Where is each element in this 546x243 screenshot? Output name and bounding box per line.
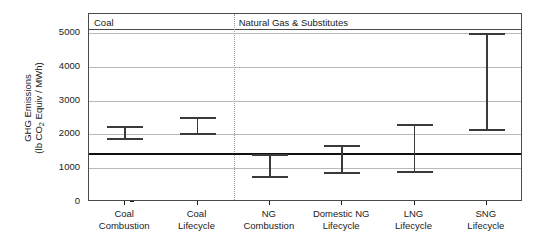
error-bar-cap-high [252, 154, 288, 156]
y-tick-mark-0 [130, 201, 134, 202]
x-tick-label-line: Coal [99, 208, 150, 220]
x-tick-label-line: Lifecycle [313, 220, 369, 232]
x-tick-mark-5 [414, 201, 415, 205]
x-tick-label-coal-lifecycle: CoalLifecycle [178, 208, 215, 232]
x-tick-label-line: SNG [467, 208, 504, 220]
error-bar-coal-lifecycle [180, 117, 216, 135]
y-tick-label-3000: 3000 [46, 95, 80, 105]
y-tick-label-4000: 4000 [46, 61, 80, 71]
y-axis-title-line2: (lb CO2 Equiv / MWh) [33, 62, 46, 153]
panel-divider [234, 14, 235, 200]
y-axis-title-subscript: 2 [37, 122, 46, 126]
error-bar-cap-high [397, 124, 433, 126]
y-axis-title-line1: GHG Emissions [22, 74, 34, 142]
ghg-emissions-chart: GHG Emissions (lb CO2 Equiv / MWh) 01000… [0, 0, 546, 243]
x-tick-label-line: Lifecycle [395, 220, 432, 232]
error-bar-lng-lifecycle [397, 124, 433, 174]
x-tick-label-line: Lifecycle [178, 220, 215, 232]
x-tick-label-line: LNG [395, 208, 432, 220]
x-tick-mark-4 [341, 201, 342, 205]
x-tick-mark-6 [486, 201, 487, 205]
x-tick-label-line: Lifecycle [467, 220, 504, 232]
gridline-1000 [89, 168, 521, 169]
error-bar-cap-low [180, 133, 216, 135]
x-tick-label-line: NG [243, 208, 294, 220]
x-tick-label-sng-lifecycle: SNGLifecycle [467, 208, 504, 232]
gridline-2000 [89, 134, 521, 135]
y-tick-label-2000: 2000 [46, 129, 80, 139]
x-tick-label-domestic-ng-lifecycle: Domestic NGLifecycle [313, 208, 369, 232]
reference-line [89, 153, 521, 155]
panel-header-rule [89, 29, 521, 30]
x-tick-label-line: Combustion [243, 220, 294, 232]
error-bar-cap-high [107, 126, 143, 128]
error-bar-cap-low [252, 176, 288, 178]
y-axis-ticks: 010002000300040005000 [46, 0, 80, 243]
error-bar-stem [341, 145, 343, 174]
error-bar-cap-low [324, 172, 360, 174]
error-bar-domestic-ng-lifecycle [324, 145, 360, 174]
panel-header-1: Coal [94, 18, 114, 28]
panel-header-2: Natural Gas & Substitutes [239, 18, 348, 28]
error-bar-coal-combustion [107, 126, 143, 141]
y-tick-label-0: 0 [46, 196, 80, 206]
x-tick-label-line: Combustion [99, 220, 150, 232]
x-tick-label-ng-combustion: NGCombustion [243, 208, 294, 232]
y-axis-title-units-post: Equiv / MWh) [33, 62, 44, 122]
x-tick-label-coal-combustion: CoalCombustion [99, 208, 150, 232]
error-bar-cap-high [324, 145, 360, 147]
error-bar-cap-high [469, 33, 505, 35]
plot-area: CoalNatural Gas & Substitutes [88, 13, 522, 201]
error-bar-sng-lifecycle [469, 33, 505, 131]
error-bar-ng-combustion [252, 154, 288, 179]
x-tick-mark-2 [197, 201, 198, 205]
y-axis-title-units-pre: (lb CO [33, 126, 44, 153]
x-tick-label-line: Domestic NG [313, 208, 369, 220]
y-tick-label-1000: 1000 [46, 162, 80, 172]
y-tick-label-5000: 5000 [46, 27, 80, 37]
gridline-5000 [89, 33, 521, 34]
gridline-4000 [89, 67, 521, 68]
x-tick-label-line: Coal [178, 208, 215, 220]
error-bar-cap-low [397, 171, 433, 173]
x-tick-label-lng-lifecycle: LNGLifecycle [395, 208, 432, 232]
error-bar-cap-low [469, 129, 505, 131]
error-bar-stem [414, 124, 416, 174]
error-bar-stem [486, 33, 488, 131]
error-bar-cap-high [180, 117, 216, 119]
x-tick-mark-1 [124, 201, 125, 205]
error-bar-stem [269, 154, 271, 179]
error-bar-cap-low [107, 138, 143, 140]
x-tick-mark-3 [269, 201, 270, 205]
gridline-3000 [89, 101, 521, 102]
